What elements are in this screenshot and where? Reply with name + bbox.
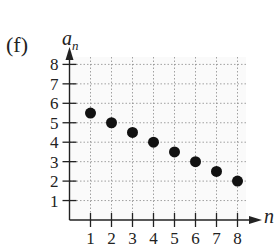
y-tick-label: 7 — [50, 75, 59, 94]
data-point — [232, 176, 243, 187]
x-tick-label: 8 — [233, 229, 242, 248]
data-point — [127, 127, 138, 138]
scatter-plot: 12345678 12345678 — [0, 0, 275, 248]
y-tick-label: 1 — [50, 192, 59, 211]
data-point — [106, 117, 117, 128]
y-tick-label: 8 — [50, 55, 59, 74]
x-tick-label: 7 — [212, 229, 221, 248]
data-point — [85, 108, 96, 119]
y-tick-label: 6 — [50, 94, 59, 113]
data-point — [190, 156, 201, 167]
x-tick-label: 1 — [86, 229, 95, 248]
y-axis-arrow-icon — [66, 47, 74, 60]
x-tick-label: 6 — [191, 229, 200, 248]
x-tick-label: 4 — [149, 229, 158, 248]
data-point — [148, 137, 159, 148]
y-tick-label: 3 — [50, 153, 59, 172]
plot-area — [70, 57, 247, 220]
x-tick-label: 2 — [107, 229, 116, 248]
grid — [70, 57, 247, 220]
x-tick-label: 3 — [128, 229, 137, 248]
x-axis-arrow-icon — [249, 216, 262, 224]
x-tick-label: 5 — [170, 229, 179, 248]
y-tick-label: 4 — [50, 133, 59, 152]
data-point — [169, 146, 180, 157]
data-point — [211, 166, 222, 177]
y-tick-label: 2 — [50, 172, 59, 191]
y-tick-label: 5 — [50, 114, 59, 133]
